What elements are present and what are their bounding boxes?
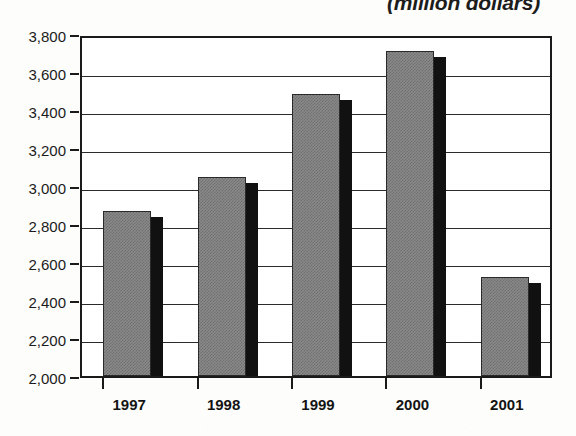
y-axis-tick-mark (70, 339, 79, 341)
y-axis-tick-mark (70, 187, 79, 189)
bar-shadow (434, 57, 446, 376)
x-axis-tick-label-1997: 1997 (113, 396, 146, 413)
y-axis-tick-mark (70, 225, 79, 227)
x-axis-tick-label-1999: 1999 (301, 396, 334, 413)
y-axis-tick-label: 3,200 (0, 142, 66, 159)
bar-shadow (340, 100, 352, 376)
y-axis-tick-label: 3,600 (0, 66, 66, 83)
y-axis-tick-label: 2,800 (0, 218, 66, 235)
bar-1999[interactable] (292, 94, 352, 376)
y-axis-tick-label: 3,400 (0, 104, 66, 121)
y-axis-tick-mark (70, 149, 79, 151)
y-axis-tick-mark (70, 263, 79, 265)
bar-body (386, 51, 434, 376)
bar-shadow (246, 183, 258, 376)
bar-body (198, 177, 246, 376)
x-axis-tick-label-2001: 2001 (490, 396, 523, 413)
y-axis-tick-label: 2,000 (0, 370, 66, 387)
plot-area (80, 36, 552, 378)
bar-2001[interactable] (481, 277, 541, 376)
y-axis-tick-label: 3,800 (0, 28, 66, 45)
x-axis-tick-mark (102, 378, 104, 389)
x-axis-tick-mark (197, 378, 199, 389)
bar-1997[interactable] (103, 211, 163, 376)
y-axis-tick-mark (70, 301, 79, 303)
y-axis-tick-mark (70, 377, 79, 379)
y-axis-tick-label: 2,200 (0, 332, 66, 349)
bar-shadow (529, 283, 541, 376)
y-axis-tick-label: 3,000 (0, 180, 66, 197)
chart-title: (million dollars) (0, 0, 540, 15)
x-axis-tick-mark (291, 378, 293, 389)
y-axis-tick-mark (70, 111, 79, 113)
y-axis-tick-label: 2,400 (0, 294, 66, 311)
bar-shadow (151, 217, 163, 376)
y-axis-tick-mark (70, 35, 79, 37)
bar-body (292, 94, 340, 376)
bar-body (103, 211, 151, 376)
y-axis-tick-mark (70, 73, 79, 75)
x-axis-tick-mark (385, 378, 387, 389)
bar-2000[interactable] (386, 51, 446, 376)
x-axis-tick-label-1998: 1998 (207, 396, 240, 413)
y-axis-tick-label: 2,600 (0, 256, 66, 273)
x-axis-tick-mark (480, 378, 482, 389)
bar-body (481, 277, 529, 376)
bar-1998[interactable] (198, 177, 258, 376)
x-axis-tick-label-2000: 2000 (396, 396, 429, 413)
gridline (82, 76, 550, 77)
